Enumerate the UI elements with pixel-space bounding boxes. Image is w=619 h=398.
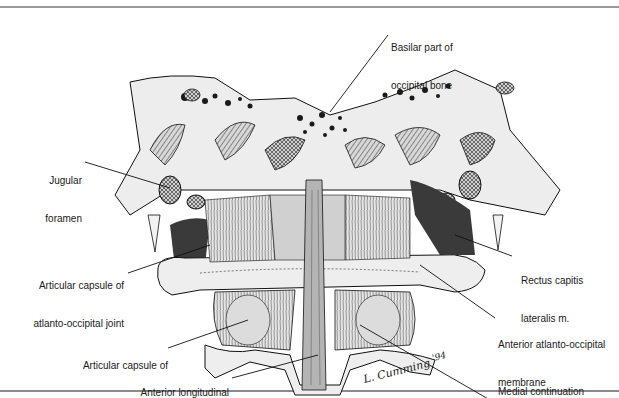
label-anterior-longitudinal-ligament: Anterior longitudinal ligament [110,362,229,398]
label-line: Basilar part of [391,42,453,55]
label-line: atlanto-occipital joint [10,318,124,331]
label-basilar-part: Basilar part of occipital bone [391,17,453,105]
label-jugular-foramen: Jugular foramen [40,150,82,238]
label-line: foramen [40,213,82,226]
signature-year: '94 [431,350,447,363]
label-medial-continuation: Medial continuation of articular capsule… [498,362,589,398]
label-line: Articular capsule of [10,280,124,293]
label-line: Jugular [40,175,82,188]
label-atlanto-occipital-capsule: Articular capsule of atlanto-occipital j… [10,255,124,343]
atlanto-occipital-capsule-left [205,195,275,262]
label-line: occipital bone [391,80,453,93]
label-line: Medial continuation [498,386,589,398]
label-line: Anterior longitudinal [110,387,229,398]
label-line: Rectus capitis [521,275,583,288]
atlanto-occipital-capsule-right [345,195,410,260]
label-line: Anterior atlanto-occipital [498,339,605,352]
